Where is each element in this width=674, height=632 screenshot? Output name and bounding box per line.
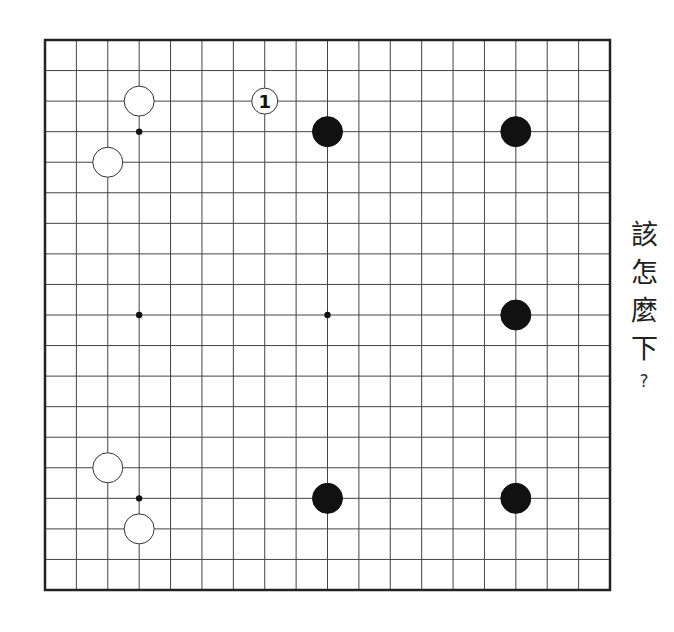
black-stone[interactable] <box>313 117 343 147</box>
black-stone[interactable] <box>501 300 531 330</box>
prompt-char: 怎 <box>631 254 658 292</box>
prompt-char: 下 <box>631 330 658 368</box>
black-stone[interactable] <box>313 483 343 513</box>
go-board[interactable]: 1 <box>0 0 674 632</box>
white-stone[interactable] <box>93 453 123 483</box>
question-mark: ? <box>639 370 648 392</box>
prompt-char: 該 <box>631 216 658 254</box>
star-point-icon <box>324 312 330 318</box>
white-stone[interactable] <box>93 147 123 177</box>
white-stone[interactable] <box>124 86 154 116</box>
black-stone[interactable] <box>501 117 531 147</box>
black-stone[interactable] <box>501 483 531 513</box>
white-stone[interactable] <box>124 514 154 544</box>
move-number: 1 <box>258 91 271 112</box>
star-point-icon <box>136 312 142 318</box>
prompt-char: 麼 <box>631 292 658 330</box>
numbered-move[interactable]: 1 <box>252 88 278 114</box>
question-prompt: 該 怎 麼 下 ? <box>630 216 658 392</box>
star-point-icon <box>136 128 142 134</box>
star-point-icon <box>136 495 142 501</box>
